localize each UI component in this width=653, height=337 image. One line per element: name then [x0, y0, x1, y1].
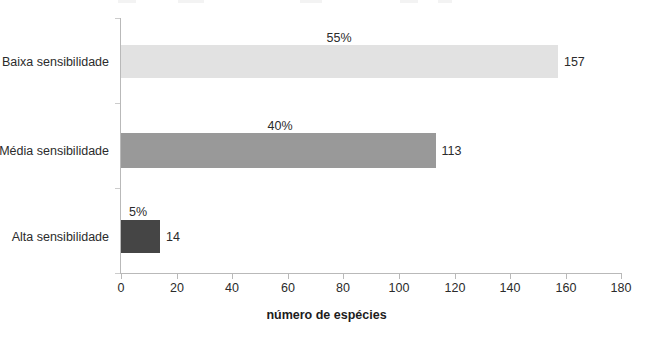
bar-value-label-baixa: 157	[564, 55, 585, 69]
x-tick-label-140: 140	[500, 281, 521, 295]
bar-media-sensibilidade	[121, 133, 436, 168]
value-axis-tick	[121, 274, 122, 279]
value-axis-tick	[566, 274, 567, 279]
x-axis-title: número de espécies	[0, 308, 653, 322]
x-tick-label-0: 0	[118, 281, 125, 295]
value-axis-tick	[177, 274, 178, 279]
bar-baixa-sensibilidade	[121, 45, 558, 78]
scan-artifact	[178, 0, 204, 3]
value-axis-line	[120, 273, 622, 274]
scan-artifact	[118, 0, 136, 3]
bar-value-label-alta: 14	[166, 230, 180, 244]
category-label-media-sensibilidade: Média sensibilidade	[0, 144, 109, 158]
bar-percent-label-alta: 5%	[129, 205, 147, 219]
bar-value-label-media: 113	[442, 144, 462, 158]
x-tick-label-20: 20	[170, 281, 184, 295]
category-label-alta-sensibilidade: Alta sensibilidade	[12, 230, 109, 244]
value-axis-tick	[510, 274, 511, 279]
value-axis-tick	[343, 274, 344, 279]
value-axis-tick	[288, 274, 289, 279]
bar-percent-label-baixa: 55%	[326, 31, 351, 45]
x-tick-label-40: 40	[225, 281, 239, 295]
value-axis-tick	[621, 274, 622, 279]
value-axis-tick	[232, 274, 233, 279]
value-axis-tick	[399, 274, 400, 279]
x-tick-label-120: 120	[445, 281, 466, 295]
category-axis-tick	[115, 188, 120, 189]
x-tick-label-100: 100	[389, 281, 410, 295]
scan-artifact	[300, 0, 322, 3]
category-axis-tick	[115, 103, 120, 104]
scan-artifact	[400, 0, 418, 3]
x-tick-label-60: 60	[281, 281, 295, 295]
category-axis-tick	[115, 273, 120, 274]
x-tick-label-80: 80	[336, 281, 350, 295]
category-axis-tick	[115, 18, 120, 19]
bar-percent-label-media: 40%	[267, 119, 292, 133]
x-tick-label-160: 160	[556, 281, 577, 295]
bar-alta-sensibilidade	[121, 220, 160, 253]
value-axis-tick	[455, 274, 456, 279]
scan-artifact	[438, 0, 452, 3]
bar-chart: 0 20 40 60 80 100 120 140 160 180 Baixa …	[0, 0, 653, 337]
category-label-baixa-sensibilidade: Baixa sensibilidade	[2, 55, 109, 69]
x-tick-label-180: 180	[611, 281, 632, 295]
